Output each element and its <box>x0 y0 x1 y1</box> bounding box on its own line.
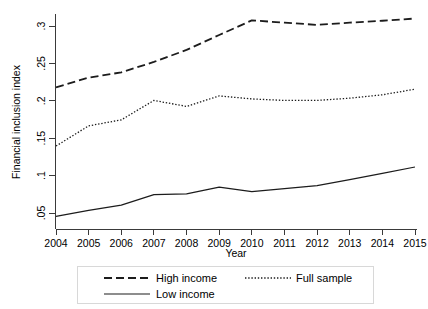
x-tick-label: 2011 <box>273 237 296 249</box>
series-line-low-income <box>56 167 415 216</box>
series-line-high-income <box>56 19 415 88</box>
y-axis-title: Financial inclusion index <box>10 64 22 179</box>
legend-label-low-income: Low income <box>156 288 215 300</box>
chart-canvas: .05.1.15.2.25.3 200420052006200720082009… <box>0 0 428 309</box>
x-tick-label: 2006 <box>110 237 134 249</box>
legend-label-high-income: High income <box>156 272 217 284</box>
x-tick-label: 2005 <box>77 237 101 249</box>
legend-label-full-sample: Full sample <box>296 272 352 284</box>
x-tick-label: 2012 <box>305 237 329 249</box>
y-tick-label: .15 <box>35 131 47 146</box>
x-tick-label: 2007 <box>142 237 166 249</box>
y-tick-label: .05 <box>35 206 47 221</box>
legend-group: High incomeFull sampleLow income <box>104 272 352 300</box>
x-tick-label: 2004 <box>44 237 68 249</box>
series-group <box>56 19 415 217</box>
x-tick-label: 2008 <box>175 237 199 249</box>
y-axis-ticks: .05.1.15.2.25.3 <box>35 21 56 220</box>
x-axis-title: Year <box>225 247 247 259</box>
financial-inclusion-chart: .05.1.15.2.25.3 200420052006200720082009… <box>0 0 428 309</box>
y-tick-label: .2 <box>35 96 47 105</box>
y-tick-label: .25 <box>35 56 47 71</box>
y-tick-label: .3 <box>35 21 47 30</box>
x-tick-label: 2013 <box>338 237 362 249</box>
x-tick-label: 2014 <box>371 237 395 249</box>
x-tick-label: 2015 <box>403 237 427 249</box>
y-tick-label: .1 <box>35 171 47 180</box>
series-line-full-sample <box>56 89 415 146</box>
